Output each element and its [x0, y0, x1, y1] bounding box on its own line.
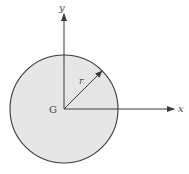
- radius-label: r: [79, 76, 84, 86]
- disk-diagram: y x r G: [0, 0, 189, 174]
- y-axis-label: y: [58, 2, 65, 13]
- center-of-mass-label: G: [49, 104, 57, 115]
- x-axis-label: x: [178, 103, 184, 114]
